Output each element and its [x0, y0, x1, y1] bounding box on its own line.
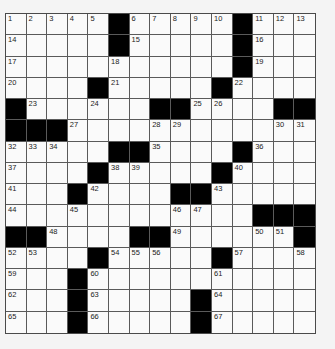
grid-cell[interactable] — [191, 163, 212, 184]
grid-cell[interactable] — [47, 99, 68, 120]
grid-cell[interactable] — [150, 269, 171, 290]
grid-cell[interactable]: 29 — [171, 120, 192, 141]
grid-cell[interactable]: 58 — [294, 248, 315, 269]
grid-cell[interactable] — [233, 205, 254, 226]
grid-cell[interactable]: 2 — [27, 14, 48, 35]
grid-cell[interactable] — [294, 312, 315, 333]
grid-cell[interactable] — [109, 290, 130, 311]
grid-cell[interactable] — [253, 99, 274, 120]
grid-cell[interactable] — [233, 227, 254, 248]
grid-cell[interactable]: 59 — [6, 269, 27, 290]
grid-cell[interactable] — [88, 142, 109, 163]
grid-cell[interactable] — [274, 269, 295, 290]
grid-cell[interactable]: 15 — [130, 35, 151, 56]
grid-cell[interactable]: 9 — [191, 14, 212, 35]
grid-cell[interactable] — [109, 205, 130, 226]
grid-cell[interactable] — [171, 312, 192, 333]
grid-cell[interactable]: 39 — [130, 163, 151, 184]
grid-cell[interactable] — [274, 57, 295, 78]
grid-cell[interactable] — [191, 227, 212, 248]
grid-cell[interactable] — [274, 142, 295, 163]
grid-cell[interactable] — [68, 142, 89, 163]
grid-cell[interactable]: 17 — [6, 57, 27, 78]
grid-cell[interactable]: 35 — [150, 142, 171, 163]
grid-cell[interactable] — [253, 312, 274, 333]
grid-cell[interactable] — [150, 205, 171, 226]
grid-cell[interactable] — [233, 290, 254, 311]
grid-cell[interactable] — [150, 312, 171, 333]
grid-cell[interactable] — [294, 290, 315, 311]
grid-cell[interactable]: 43 — [212, 184, 233, 205]
grid-cell[interactable] — [150, 290, 171, 311]
grid-cell[interactable] — [191, 35, 212, 56]
grid-cell[interactable] — [274, 163, 295, 184]
grid-cell[interactable] — [294, 163, 315, 184]
grid-cell[interactable] — [68, 248, 89, 269]
grid-cell[interactable] — [130, 57, 151, 78]
grid-cell[interactable] — [27, 312, 48, 333]
grid-cell[interactable] — [130, 99, 151, 120]
grid-cell[interactable] — [212, 57, 233, 78]
grid-cell[interactable] — [130, 205, 151, 226]
grid-cell[interactable]: 34 — [47, 142, 68, 163]
grid-cell[interactable]: 40 — [233, 163, 254, 184]
grid-cell[interactable]: 31 — [294, 120, 315, 141]
grid-cell[interactable]: 44 — [6, 205, 27, 226]
grid-cell[interactable]: 50 — [253, 227, 274, 248]
grid-cell[interactable] — [212, 35, 233, 56]
grid-cell[interactable] — [253, 290, 274, 311]
grid-cell[interactable] — [191, 57, 212, 78]
grid-cell[interactable] — [233, 99, 254, 120]
grid-cell[interactable] — [253, 78, 274, 99]
grid-cell[interactable]: 20 — [6, 78, 27, 99]
grid-cell[interactable]: 13 — [294, 14, 315, 35]
grid-cell[interactable] — [212, 227, 233, 248]
grid-cell[interactable] — [68, 99, 89, 120]
grid-cell[interactable] — [233, 312, 254, 333]
grid-cell[interactable] — [294, 57, 315, 78]
grid-cell[interactable] — [191, 142, 212, 163]
grid-cell[interactable]: 8 — [171, 14, 192, 35]
grid-cell[interactable] — [171, 290, 192, 311]
grid-cell[interactable] — [109, 120, 130, 141]
grid-cell[interactable]: 21 — [109, 78, 130, 99]
grid-cell[interactable]: 27 — [68, 120, 89, 141]
grid-cell[interactable]: 56 — [150, 248, 171, 269]
grid-cell[interactable] — [191, 248, 212, 269]
grid-cell[interactable] — [191, 120, 212, 141]
grid-cell[interactable] — [88, 35, 109, 56]
grid-cell[interactable] — [130, 78, 151, 99]
grid-cell[interactable] — [47, 78, 68, 99]
grid-cell[interactable]: 51 — [274, 227, 295, 248]
grid-cell[interactable] — [47, 184, 68, 205]
grid-cell[interactable]: 64 — [212, 290, 233, 311]
grid-cell[interactable]: 11 — [253, 14, 274, 35]
grid-cell[interactable] — [294, 184, 315, 205]
grid-cell[interactable] — [27, 205, 48, 226]
grid-cell[interactable] — [47, 290, 68, 311]
grid-cell[interactable] — [130, 269, 151, 290]
grid-cell[interactable] — [233, 120, 254, 141]
grid-cell[interactable]: 16 — [253, 35, 274, 56]
grid-cell[interactable]: 65 — [6, 312, 27, 333]
grid-cell[interactable] — [68, 78, 89, 99]
grid-cell[interactable] — [233, 184, 254, 205]
grid-cell[interactable]: 62 — [6, 290, 27, 311]
grid-cell[interactable]: 55 — [130, 248, 151, 269]
grid-cell[interactable] — [88, 57, 109, 78]
grid-cell[interactable] — [294, 35, 315, 56]
grid-cell[interactable]: 52 — [6, 248, 27, 269]
grid-cell[interactable] — [171, 269, 192, 290]
grid-cell[interactable]: 30 — [274, 120, 295, 141]
grid-cell[interactable]: 66 — [88, 312, 109, 333]
grid-cell[interactable] — [27, 35, 48, 56]
grid-cell[interactable] — [47, 35, 68, 56]
grid-cell[interactable] — [294, 269, 315, 290]
grid-cell[interactable]: 36 — [253, 142, 274, 163]
grid-cell[interactable]: 46 — [171, 205, 192, 226]
grid-cell[interactable] — [212, 205, 233, 226]
grid-cell[interactable] — [191, 269, 212, 290]
grid-cell[interactable]: 53 — [27, 248, 48, 269]
grid-cell[interactable] — [47, 205, 68, 226]
grid-cell[interactable] — [88, 205, 109, 226]
